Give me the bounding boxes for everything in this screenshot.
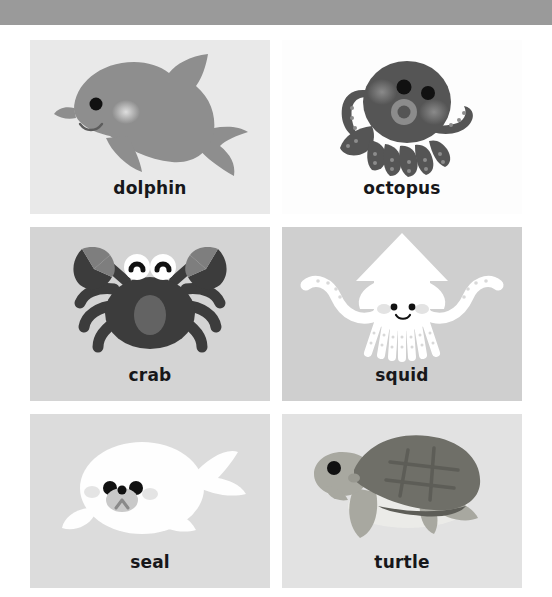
octopus-illustration xyxy=(282,40,522,182)
card-dolphin[interactable]: dolphin xyxy=(30,40,270,214)
turtle-illustration xyxy=(282,414,522,556)
card-label-turtle: turtle xyxy=(282,552,522,572)
card-seal[interactable]: seal xyxy=(30,414,270,588)
card-octopus[interactable]: octopus xyxy=(282,40,522,214)
card-label-dolphin: dolphin xyxy=(30,178,270,198)
card-squid[interactable]: squid xyxy=(282,227,522,401)
card-label-squid: squid xyxy=(282,365,522,385)
squid-illustration xyxy=(282,227,522,369)
card-label-crab: crab xyxy=(30,365,270,385)
card-label-octopus: octopus xyxy=(282,178,522,198)
crab-illustration xyxy=(30,227,270,369)
card-turtle[interactable]: turtle xyxy=(282,414,522,588)
card-label-seal: seal xyxy=(30,552,270,572)
animal-card-grid: dolphin xyxy=(30,40,522,588)
top-gray-bar xyxy=(0,0,552,25)
card-crab[interactable]: crab xyxy=(30,227,270,401)
dolphin-illustration xyxy=(30,40,270,182)
seal-illustration xyxy=(30,414,270,556)
